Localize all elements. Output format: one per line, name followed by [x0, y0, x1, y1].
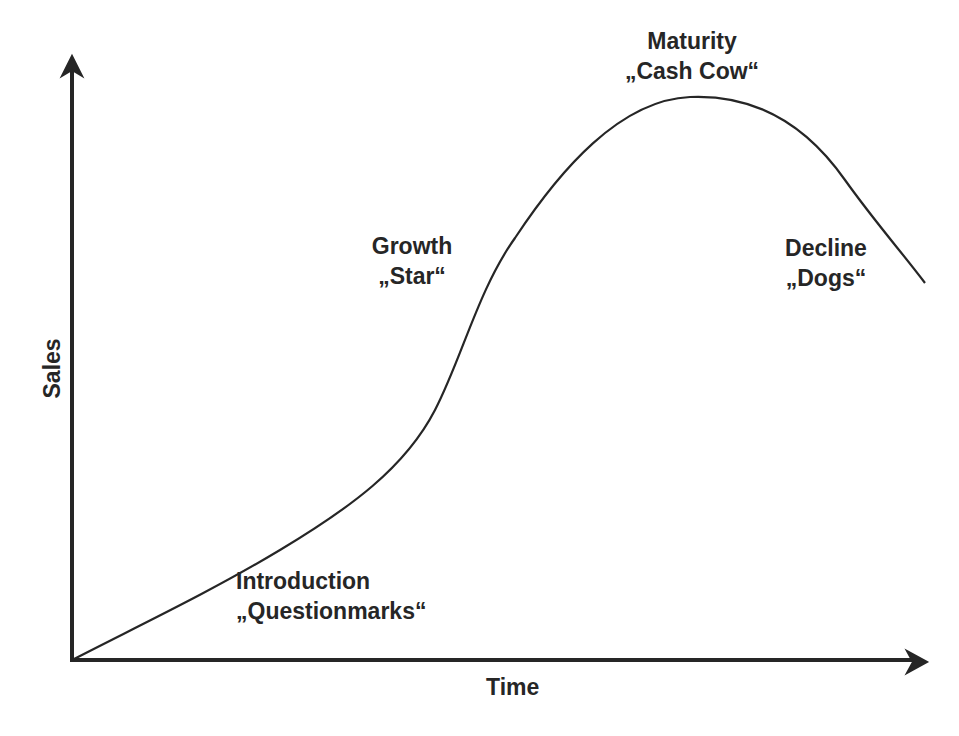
x-axis-title: Time: [486, 674, 539, 701]
label-decline: Decline „Dogs“: [766, 233, 886, 293]
y-axis-title: Sales: [39, 339, 66, 399]
label-maturity: Maturity „Cash Cow“: [612, 26, 772, 86]
introduction-stage: Introduction: [236, 566, 426, 596]
product-life-cycle-chart: [0, 0, 959, 736]
sales-curve: [72, 97, 925, 660]
introduction-nickname: „Questionmarks“: [236, 596, 426, 626]
maturity-stage: Maturity: [612, 26, 772, 56]
growth-nickname: „Star“: [352, 261, 472, 291]
maturity-nickname: „Cash Cow“: [612, 56, 772, 86]
decline-nickname: „Dogs“: [766, 263, 886, 293]
label-introduction: Introduction „Questionmarks“: [236, 566, 426, 626]
label-growth: Growth „Star“: [352, 231, 472, 291]
growth-stage: Growth: [352, 231, 472, 261]
decline-stage: Decline: [766, 233, 886, 263]
